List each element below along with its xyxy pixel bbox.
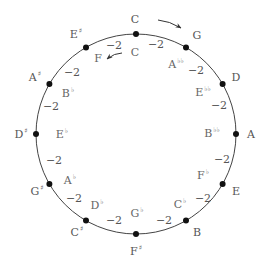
note-dot — [220, 181, 226, 187]
inner-note-label: E♭ — [56, 128, 68, 140]
clockwise-arrow-icon — [158, 20, 181, 28]
note-dot — [83, 218, 89, 224]
interval-label: −2 — [156, 215, 172, 226]
outer-note-label: A — [247, 129, 255, 140]
note-dot — [133, 31, 139, 37]
interval-label: −2 — [43, 101, 59, 112]
inner-note-label: D♭ — [90, 199, 103, 211]
outer-note-label: E♯ — [70, 28, 82, 40]
inner-note-label: G♭ — [130, 207, 143, 219]
inner-note-label: B♭ — [62, 87, 74, 99]
note-dot — [183, 218, 189, 224]
outer-note-label: C♯ — [71, 226, 84, 238]
outer-note-label: C — [131, 14, 139, 25]
note-dot — [183, 44, 189, 50]
note-dot — [83, 44, 89, 50]
outer-note-label: A♯ — [29, 71, 41, 83]
outer-note-label: F♯ — [130, 245, 142, 257]
interval-label: −2 — [64, 67, 80, 78]
inner-note-label: C — [131, 47, 139, 58]
interval-label: −2 — [46, 155, 62, 166]
interval-label: −2 — [148, 39, 164, 50]
note-dot — [220, 81, 226, 87]
inner-note-label: B♭♭ — [204, 127, 220, 139]
interval-label: −2 — [106, 40, 122, 51]
counterclockwise-arrow-icon — [107, 53, 122, 59]
inner-note-label: F — [94, 53, 102, 64]
note-dot — [46, 181, 52, 187]
inner-note-label: A♭♭ — [168, 58, 184, 70]
outer-note-label: D♯ — [14, 128, 27, 140]
interval-label: −2 — [188, 65, 204, 76]
interval-label: −2 — [66, 193, 82, 204]
note-dot — [46, 81, 52, 87]
note-dot — [233, 131, 239, 137]
outer-note-label: G♯ — [30, 185, 43, 197]
interval-label: −2 — [211, 100, 227, 111]
circle-of-fifths-diagram — [0, 0, 265, 266]
outer-note-label: E — [232, 186, 240, 197]
outer-note-label: B — [193, 227, 201, 238]
note-dot — [33, 131, 39, 137]
interval-label: −2 — [106, 215, 122, 226]
interval-label: −2 — [195, 193, 211, 204]
note-dot — [133, 231, 139, 237]
inner-note-label: E♭♭ — [195, 86, 211, 98]
outer-note-label: G — [193, 30, 202, 41]
interval-label: −2 — [214, 154, 230, 165]
outer-note-label: D — [232, 72, 241, 83]
inner-note-label: C♭ — [174, 198, 187, 210]
inner-note-label: A♭ — [64, 174, 76, 186]
inner-note-label: F♭ — [197, 169, 209, 181]
